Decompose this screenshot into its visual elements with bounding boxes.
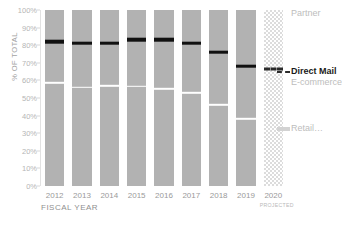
y-tick-mark: [37, 98, 40, 99]
direct-mail-band: [209, 50, 228, 53]
bar-column[interactable]: [209, 10, 228, 186]
x-tick-label: 2015: [123, 191, 150, 200]
bar-column[interactable]: [45, 10, 64, 186]
y-tick-mark: [37, 115, 40, 116]
x-tick-label: 2017: [178, 191, 205, 200]
x-tick-label: 2012: [41, 191, 68, 200]
legend-item-direct-mail[interactable]: Direct Mail: [291, 66, 337, 76]
y-tick-mark: [37, 27, 40, 28]
y-tick-mark: [37, 186, 40, 187]
bar-column[interactable]: [182, 10, 201, 186]
x-tick-label: 2016: [150, 191, 177, 200]
direct-mail-band: [182, 42, 201, 45]
y-tick-mark: [37, 80, 40, 81]
x-tick-label: 2018: [205, 191, 232, 200]
bar-column[interactable]: [100, 10, 119, 186]
direct-mail-band: [45, 40, 64, 43]
x-tick-note: PROJECTED: [260, 202, 287, 208]
segment-separator: [182, 92, 201, 94]
legend-marker-retail: [277, 127, 290, 131]
direct-mail-band: [72, 42, 91, 45]
bar-column[interactable]: [127, 10, 146, 186]
segment-separator: [72, 86, 91, 88]
bar-column[interactable]: [236, 10, 255, 186]
bar-column[interactable]: [264, 10, 283, 186]
x-tick-label: 2020: [260, 191, 287, 200]
segment-separator: [100, 85, 119, 87]
plot-area: 100%90%80%70%60%50%40%30%20%10%0%2012201…: [41, 10, 287, 186]
bar-column[interactable]: [72, 10, 91, 186]
x-tick-label: 2014: [96, 191, 123, 200]
segment-separator: [236, 118, 255, 120]
y-tick-mark: [37, 45, 40, 46]
x-axis-title: FISCAL YEAR: [41, 203, 98, 212]
legend-item-retail[interactable]: Retail…: [291, 123, 323, 133]
y-tick-mark: [37, 10, 40, 11]
legend-item-partner[interactable]: Partner: [291, 8, 321, 18]
direct-mail-band: [100, 42, 119, 45]
legend-item-e-commerce[interactable]: E-commerce: [291, 77, 342, 87]
direct-mail-band: [154, 38, 173, 41]
segment-separator: [45, 82, 64, 84]
y-tick-mark: [37, 62, 40, 63]
x-tick-label: 2013: [68, 191, 95, 200]
segment-separator: [209, 104, 228, 106]
segment-separator: [127, 86, 146, 88]
y-tick-mark: [37, 133, 40, 134]
bar-column[interactable]: [154, 10, 173, 186]
y-tick-mark: [37, 168, 40, 169]
x-tick-label: 2019: [232, 191, 259, 200]
y-tick-mark: [37, 150, 40, 151]
segment-separator: [154, 88, 173, 90]
direct-mail-band: [236, 64, 255, 67]
direct-mail-band: [127, 38, 146, 41]
y-axis-title: % OF TOTAL: [10, 13, 19, 101]
legend-marker-direct-mail: [277, 71, 290, 73]
